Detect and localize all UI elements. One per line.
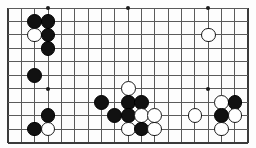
stone-white-c2r2[interactable] xyxy=(27,28,42,43)
grid-line-horizontal-4 xyxy=(8,61,248,62)
stone-black-c3r8[interactable] xyxy=(41,108,56,123)
stone-black-c16r8[interactable] xyxy=(214,108,229,123)
stone-black-c7r7[interactable] xyxy=(94,95,109,110)
stone-black-c8r8[interactable] xyxy=(107,108,122,123)
stone-white-c11r8[interactable] xyxy=(147,108,162,123)
star-point-0 xyxy=(46,6,50,10)
go-board-diagram xyxy=(0,0,256,148)
stone-black-c3r3[interactable] xyxy=(41,41,56,56)
stone-black-c2r1[interactable] xyxy=(27,14,42,29)
stone-black-c2r9[interactable] xyxy=(27,122,42,137)
goban-grid[interactable] xyxy=(0,0,256,148)
star-point-2 xyxy=(206,6,210,10)
stone-white-c16r9[interactable] xyxy=(214,122,229,137)
stone-white-c14r8[interactable] xyxy=(188,108,203,123)
stone-white-c11r9[interactable] xyxy=(147,122,162,137)
grid-line-horizontal-5 xyxy=(8,75,248,76)
star-point-3 xyxy=(46,87,50,91)
star-point-1 xyxy=(126,6,130,10)
stone-black-c3r1[interactable] xyxy=(41,14,56,29)
stone-white-c15r2[interactable] xyxy=(201,28,216,43)
stone-black-c2r5[interactable] xyxy=(27,68,42,83)
stone-white-c9r6[interactable] xyxy=(121,81,136,96)
stone-white-c17r8[interactable] xyxy=(228,108,243,123)
grid-line-horizontal-10 xyxy=(8,142,248,144)
stone-white-c3r9[interactable] xyxy=(41,122,56,137)
star-point-4 xyxy=(206,87,210,91)
